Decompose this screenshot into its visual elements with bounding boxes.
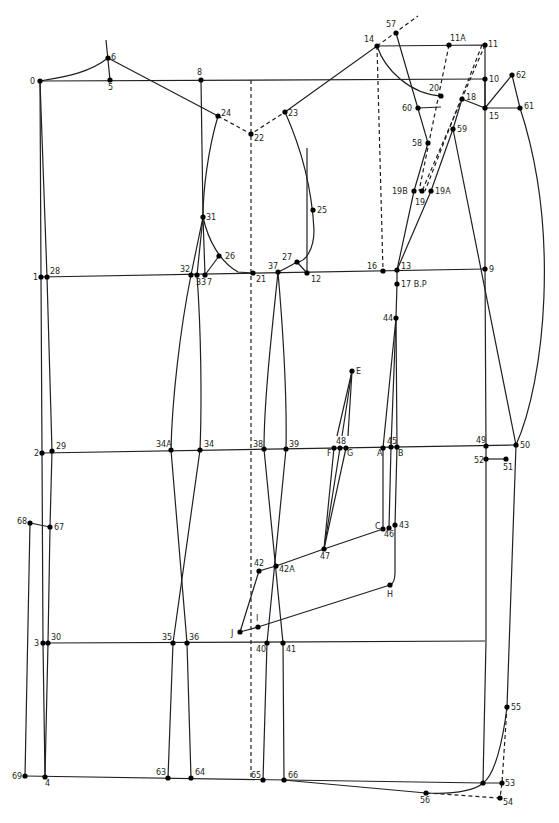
- point-marker: [283, 446, 288, 451]
- pattern-line: [278, 112, 314, 272]
- point-label: B: [398, 449, 404, 458]
- pattern-line: [418, 107, 441, 108]
- point-label: 23: [288, 109, 298, 118]
- point-marker: [419, 188, 424, 193]
- point-label: 33: [196, 278, 206, 287]
- pattern-line: [285, 45, 485, 112]
- pattern-line: [516, 108, 544, 445]
- point-marker: [45, 640, 50, 645]
- point-marker: [197, 447, 202, 452]
- point-label: 19A: [435, 187, 451, 196]
- point-label: 57: [386, 20, 396, 29]
- point-label: E: [356, 367, 361, 376]
- point-marker: [459, 96, 464, 101]
- pattern-line: [324, 529, 383, 549]
- point-label: J: [230, 629, 233, 638]
- point-label: 10: [489, 75, 499, 84]
- point-marker: [216, 253, 221, 258]
- pattern-line: [40, 79, 485, 81]
- point-marker: [250, 270, 255, 275]
- pattern-line: [25, 523, 30, 776]
- point-label: 67: [54, 523, 64, 532]
- point-label: 22: [254, 134, 264, 143]
- point-marker: [281, 777, 286, 782]
- point-marker: [310, 207, 315, 212]
- point-label: 56: [420, 796, 430, 805]
- point-label: 2: [34, 449, 39, 458]
- pattern-line: [203, 116, 218, 217]
- pattern-line: [171, 275, 191, 778]
- pattern-line: [205, 256, 219, 275]
- point-label: 34: [204, 440, 214, 449]
- point-label: 52: [474, 456, 484, 465]
- point-label: 61: [524, 102, 534, 111]
- point-marker: [331, 445, 336, 450]
- pattern-line: [197, 217, 203, 275]
- pattern-line: [483, 445, 516, 783]
- point-marker: [38, 274, 43, 279]
- point-marker: [374, 43, 379, 48]
- point-label: 1: [33, 273, 38, 282]
- point-label: I: [256, 614, 258, 623]
- point-marker: [450, 126, 455, 131]
- point-label: 42: [254, 559, 264, 568]
- pattern-line: [203, 217, 253, 273]
- point-marker: [248, 131, 253, 136]
- point-marker: [393, 315, 398, 320]
- point-label: 32: [180, 265, 190, 274]
- point-label: 59: [457, 125, 467, 134]
- point-label: 47: [320, 552, 330, 561]
- point-label: 68: [17, 517, 27, 526]
- point-label: 4: [45, 779, 50, 788]
- pattern-line: [42, 445, 516, 453]
- point-marker: [44, 274, 49, 279]
- point-label: 43: [399, 521, 409, 530]
- point-label: 53: [505, 779, 515, 788]
- pattern-line: [168, 275, 201, 778]
- point-label: 3: [34, 639, 39, 648]
- point-marker: [304, 270, 309, 275]
- point-marker: [387, 582, 392, 587]
- point-label: 31: [206, 213, 216, 222]
- point-marker: [194, 272, 199, 277]
- point-marker: [415, 105, 420, 110]
- pattern-line: [397, 99, 462, 270]
- point-marker: [423, 790, 428, 795]
- pattern-line: [324, 448, 346, 549]
- point-label: 15: [489, 112, 499, 121]
- point-label: 36: [189, 633, 199, 642]
- pattern-line: [40, 58, 108, 81]
- point-marker: [40, 640, 45, 645]
- pattern-line: [263, 272, 286, 780]
- point-marker: [237, 629, 242, 634]
- point-marker: [393, 30, 398, 35]
- point-label: 13: [401, 262, 411, 271]
- point-marker: [425, 140, 430, 145]
- point-marker: [517, 105, 522, 110]
- point-marker: [446, 42, 451, 47]
- pattern-line: [483, 79, 486, 783]
- pattern-line: [30, 523, 50, 527]
- point-label: 25: [317, 206, 327, 215]
- point-label: 34A: [156, 440, 172, 449]
- point-label: 39: [289, 440, 299, 449]
- point-marker: [282, 109, 287, 114]
- pattern-line: [396, 270, 397, 318]
- guide-line: [425, 45, 482, 191]
- point-marker: [428, 188, 433, 193]
- point-label: 14: [364, 35, 374, 44]
- point-label: 60: [402, 104, 412, 113]
- point-label: 17 B.P: [401, 280, 427, 289]
- point-marker: [294, 259, 299, 264]
- point-label: 42A: [279, 565, 295, 574]
- point-label: 51: [503, 463, 513, 472]
- point-label: 69: [12, 772, 22, 781]
- point-marker: [503, 456, 508, 461]
- point-marker: [273, 563, 278, 568]
- point-marker: [215, 113, 220, 118]
- point-marker: [256, 568, 261, 573]
- point-marker: [394, 267, 399, 272]
- point-marker: [482, 76, 487, 81]
- point-marker: [105, 55, 110, 60]
- point-label: 20: [429, 84, 439, 93]
